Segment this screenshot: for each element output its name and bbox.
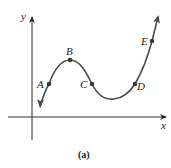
x-axis-label: x xyxy=(160,119,166,131)
point-a-label: A xyxy=(36,78,44,90)
point-b xyxy=(68,58,73,63)
y-axis-label: y xyxy=(20,10,26,22)
point-e xyxy=(150,39,155,44)
point-c-label: C xyxy=(80,78,88,90)
figure-caption: (a) xyxy=(78,149,90,161)
curve-start-arrow-icon xyxy=(37,99,44,108)
point-c xyxy=(90,82,95,87)
point-e-label: E xyxy=(140,35,148,47)
function-curve xyxy=(40,17,158,107)
point-d-label: D xyxy=(136,80,145,92)
point-b-label: B xyxy=(66,45,73,57)
function-graph: y x A B C D E (a) xyxy=(0,0,171,168)
point-a xyxy=(47,82,52,87)
